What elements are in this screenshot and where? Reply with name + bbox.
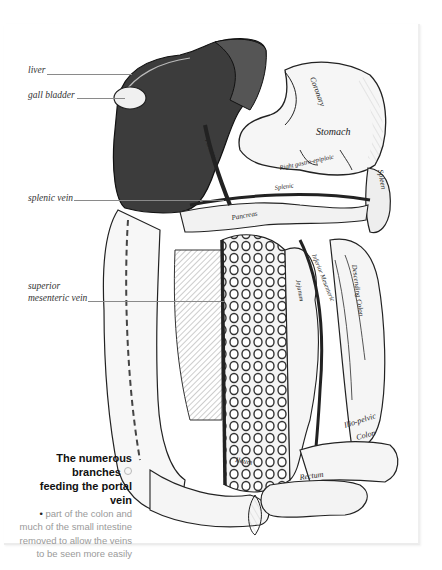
label-superior: superior — [28, 281, 60, 291]
label-gall-bladder: gall bladder — [28, 90, 75, 100]
figure-caption: The numerous branches feeding the portal… — [16, 451, 132, 560]
caption-body-line1: part of the colon and — [45, 508, 132, 519]
caption-title: The numerous branches feeding the portal… — [16, 451, 132, 507]
caption-body-line3: removed to allow the veins — [20, 535, 132, 546]
circle-marker-icon — [124, 467, 132, 475]
caption-body-line4: to be seen more easily — [36, 548, 132, 559]
label-mesenteric-vein: mesenteric vein — [28, 293, 87, 303]
liver-shape — [113, 39, 266, 213]
svg-text:Splenic: Splenic — [274, 181, 294, 191]
label-liver: liver — [28, 65, 45, 75]
leader-line-splenic-vein — [74, 200, 224, 201]
mesentery-shape — [174, 250, 222, 420]
leader-line-gall-bladder — [77, 98, 125, 99]
caption-title-line1: The numerous branches — [56, 452, 132, 478]
caption-body: • part of the colon and much of the smal… — [16, 507, 132, 560]
leader-line-superior-mesenteric-vein — [88, 301, 224, 302]
svg-text:Stomach: Stomach — [316, 126, 350, 137]
pancreas-shape — [180, 203, 368, 232]
bullet-icon: • — [39, 508, 42, 519]
label-splenic-vein: splenic vein — [28, 193, 73, 203]
rectum-shape — [261, 480, 367, 517]
caption-body-line2: much of the small intestine — [20, 521, 132, 532]
caption-title-line2: feeding the portal vein — [40, 480, 132, 506]
jejunum-vessels-shape — [222, 235, 290, 492]
leader-line-liver — [47, 74, 132, 75]
